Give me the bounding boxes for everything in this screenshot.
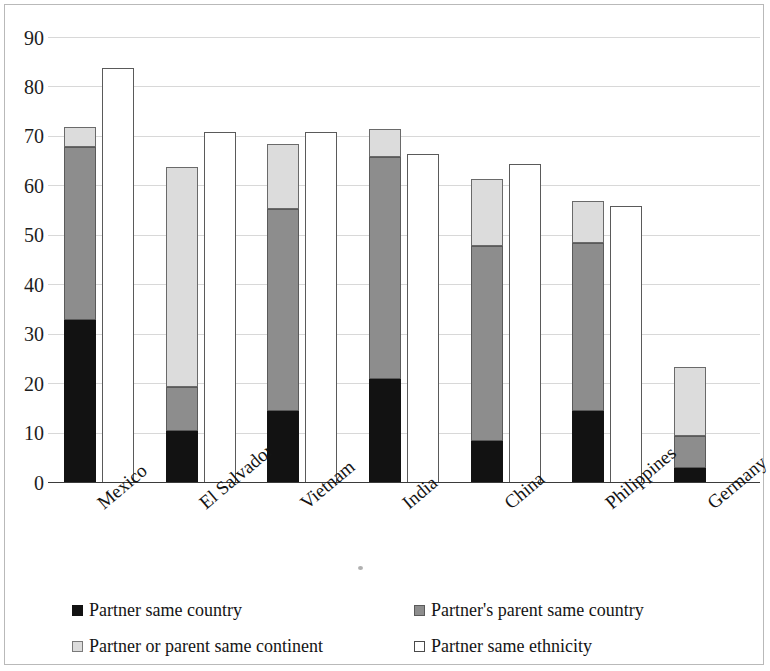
- legend-item-partner-same-ethnicity: Partner same ethnicity: [414, 636, 592, 656]
- bar-segment[interactable]: [610, 206, 642, 483]
- bar-segment[interactable]: [509, 164, 541, 483]
- bar-segment[interactable]: [572, 411, 604, 483]
- y-tick-label: 70: [4, 126, 44, 146]
- stacked-bar[interactable]: [572, 201, 604, 483]
- ethnicity-bar[interactable]: [610, 206, 642, 483]
- bar-segment[interactable]: [166, 431, 198, 483]
- stacked-bar[interactable]: [166, 167, 198, 483]
- bars-layer: [48, 38, 760, 483]
- legend-label: Partner same country: [89, 600, 242, 620]
- light-gray-swatch-icon: [72, 641, 83, 652]
- bar-segment[interactable]: [407, 154, 439, 483]
- y-tick-label: 50: [4, 225, 44, 245]
- bar-segment[interactable]: [369, 379, 401, 483]
- stacked-bar[interactable]: [674, 367, 706, 483]
- bar-segment[interactable]: [572, 243, 604, 411]
- bar-segment[interactable]: [305, 132, 337, 483]
- legend-label: Partner or parent same continent: [89, 636, 323, 656]
- bar-segment[interactable]: [267, 144, 299, 208]
- scan-artifact: [358, 566, 363, 570]
- gray-swatch-icon: [414, 605, 425, 616]
- y-tick-label: 60: [4, 176, 44, 196]
- white-swatch-icon: [414, 641, 425, 652]
- legend-item-partner-same-country: Partner same country: [72, 600, 242, 620]
- y-tick-label: 0: [4, 473, 44, 493]
- legend-item-partner-or-parent-same-continent: Partner or parent same continent: [72, 636, 323, 656]
- bar-segment[interactable]: [102, 68, 134, 483]
- bar-segment[interactable]: [64, 147, 96, 320]
- ethnicity-bar[interactable]: [509, 164, 541, 483]
- bar-segment[interactable]: [471, 179, 503, 246]
- legend-label: Partner's parent same country: [431, 600, 644, 620]
- y-tick-label: 90: [4, 28, 44, 48]
- stacked-bar[interactable]: [64, 127, 96, 483]
- black-swatch-icon: [72, 605, 83, 616]
- y-tick-label: 20: [4, 374, 44, 394]
- bar-segment[interactable]: [64, 127, 96, 147]
- ethnicity-bar[interactable]: [407, 154, 439, 483]
- x-axis-labels: MexicoEl SalvadorVietnamIndiaChinaPhilip…: [48, 483, 760, 588]
- bar-segment[interactable]: [674, 436, 706, 468]
- legend-label: Partner same ethnicity: [431, 636, 592, 656]
- ethnicity-bar[interactable]: [305, 132, 337, 483]
- ethnicity-bar[interactable]: [102, 68, 134, 483]
- y-tick-label: 40: [4, 275, 44, 295]
- bar-segment[interactable]: [572, 201, 604, 243]
- bar-segment[interactable]: [471, 441, 503, 483]
- bar-segment[interactable]: [674, 367, 706, 436]
- plot-area: [48, 38, 760, 483]
- chart-legend: Partner same country Partner's parent sa…: [72, 600, 712, 662]
- ethnicity-bar[interactable]: [204, 132, 236, 483]
- bar-segment[interactable]: [64, 320, 96, 483]
- stacked-bar[interactable]: [369, 129, 401, 483]
- bar-segment[interactable]: [674, 468, 706, 483]
- y-tick-label: 30: [4, 324, 44, 344]
- y-tick-label: 80: [4, 77, 44, 97]
- stacked-bar[interactable]: [267, 144, 299, 483]
- bar-segment[interactable]: [471, 246, 503, 441]
- bar-segment[interactable]: [267, 411, 299, 483]
- bar-segment[interactable]: [267, 209, 299, 412]
- stacked-bar[interactable]: [471, 179, 503, 483]
- bar-segment[interactable]: [369, 157, 401, 380]
- legend-item-partners-parent-same-country: Partner's parent same country: [414, 600, 644, 620]
- bar-segment[interactable]: [166, 167, 198, 387]
- bar-segment[interactable]: [166, 387, 198, 432]
- bar-segment[interactable]: [204, 132, 236, 483]
- chart-figure: 90 80 70 60 50 40 30 20 10 0 MexicoEl Sa…: [0, 0, 770, 671]
- y-tick-label: 10: [4, 423, 44, 443]
- bar-segment[interactable]: [369, 129, 401, 156]
